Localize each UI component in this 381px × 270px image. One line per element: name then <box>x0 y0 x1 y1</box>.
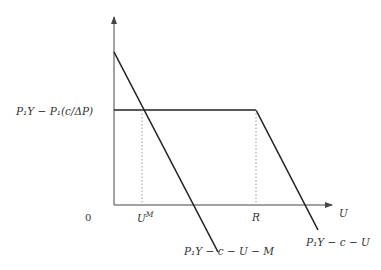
tick-label-r: R <box>251 211 260 223</box>
x-axis-label: U <box>339 207 349 219</box>
diagram-canvas: P₁Y − P₁(c/ΔP) 0 UM R U P₁Y − c − U − M … <box>0 0 381 270</box>
shallow-line-label: P₁Y − c − U <box>305 236 371 248</box>
steep-line <box>114 52 218 252</box>
tick-label-um: UM <box>137 210 154 224</box>
origin-label: 0 <box>85 212 91 223</box>
steep-line-label: P₁Y − c − U − M <box>183 245 274 257</box>
y-level-label: P₁Y − P₁(c/ΔP) <box>15 105 93 117</box>
shallow-line <box>256 110 318 230</box>
